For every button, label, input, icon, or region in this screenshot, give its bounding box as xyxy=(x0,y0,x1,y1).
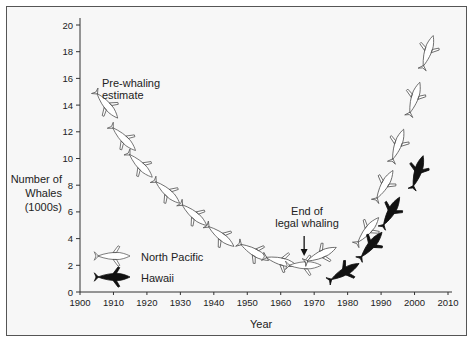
x-tick-label: 1990 xyxy=(371,297,392,308)
whale-outline-icon xyxy=(199,216,240,254)
whale-outline-icon xyxy=(260,247,300,276)
y-tick-label: 16 xyxy=(62,73,73,84)
whale-outline-icon xyxy=(103,118,143,158)
legend-label-hawaii: Hawaii xyxy=(141,272,174,284)
whale-filled-icon xyxy=(373,192,409,233)
whale-outline-icon xyxy=(233,234,274,270)
legend-whale-filled-icon xyxy=(94,267,130,287)
legend-label-north-pacific: North Pacific xyxy=(141,251,203,263)
x-tick-label: 1980 xyxy=(337,297,358,308)
y-axis-label-line2: Whales xyxy=(8,186,62,200)
whale-outline-icon xyxy=(300,238,341,272)
y-tick-label: 6 xyxy=(68,206,73,217)
whale-filled-icon xyxy=(402,153,432,193)
whale-outline-icon xyxy=(120,145,160,185)
y-tick-label: 18 xyxy=(62,46,73,57)
x-tick-label: 1930 xyxy=(170,297,191,308)
y-tick-label: 4 xyxy=(68,233,73,244)
annotation-pre-whaling: Pre-whaling estimate xyxy=(102,77,160,101)
y-axis-label-line3: (1000s) xyxy=(8,200,62,214)
plot-area: 0246810121416182019001910192019301940195… xyxy=(0,0,476,345)
annotation-end-whaling: End of legal whaling xyxy=(272,205,342,229)
x-tick-label: 1950 xyxy=(237,297,258,308)
y-tick-label: 10 xyxy=(62,153,73,164)
x-tick-label: 1940 xyxy=(203,297,224,308)
whale-outline-icon xyxy=(382,126,413,167)
x-tick-label: 1900 xyxy=(69,297,90,308)
annotation-pre-whaling-line1: Pre-whaling xyxy=(102,77,160,89)
x-tick-label: 2000 xyxy=(404,297,425,308)
y-axis-label-line1: Number of xyxy=(8,172,62,186)
x-tick-label: 2010 xyxy=(437,297,458,308)
x-tick-label: 1960 xyxy=(270,297,291,308)
y-tick-label: 2 xyxy=(68,260,73,271)
y-tick-label: 14 xyxy=(62,100,73,111)
arrow-down-icon xyxy=(301,249,308,256)
y-tick-label: 0 xyxy=(68,287,73,298)
x-axis-label: Year xyxy=(250,318,272,330)
x-tick-label: 1970 xyxy=(304,297,325,308)
whale-outline-icon xyxy=(412,32,442,72)
annotation-pre-whaling-line2: estimate xyxy=(102,89,160,101)
whale-outline-icon xyxy=(399,79,429,119)
y-axis-label: Number of Whales (1000s) xyxy=(8,172,62,214)
y-tick-label: 8 xyxy=(68,180,73,191)
legend-whale-outline-icon xyxy=(94,246,130,266)
annotation-end-whaling-line2: legal whaling xyxy=(272,217,342,229)
y-tick-label: 20 xyxy=(62,20,73,31)
y-tick-label: 12 xyxy=(62,126,73,137)
x-tick-label: 1910 xyxy=(103,297,124,308)
annotation-end-whaling-line1: End of xyxy=(272,205,342,217)
x-tick-label: 1920 xyxy=(136,297,157,308)
